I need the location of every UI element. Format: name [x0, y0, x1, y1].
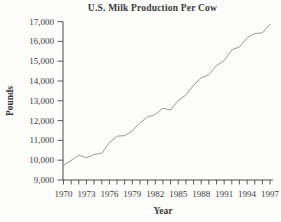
x-tick-label: 1988 — [192, 189, 211, 199]
y-tick-label: 16,000 — [29, 36, 54, 46]
y-tick-label: 14,000 — [29, 76, 54, 86]
data-line — [64, 24, 271, 165]
x-tick-label: 1997 — [261, 189, 280, 199]
x-tick-label: 1976 — [100, 189, 119, 199]
milk-production-figure: U.S. Milk Production Per Cow 9,00010,000… — [0, 0, 281, 222]
plot-area: 9,00010,00011,00012,00013,00014,00015,00… — [0, 0, 281, 222]
y-tick-label: 13,000 — [29, 96, 54, 106]
y-tick-label: 12,000 — [29, 116, 54, 126]
y-tick-label: 15,000 — [29, 56, 54, 66]
y-tick-label: 17,000 — [29, 17, 54, 27]
y-tick-label: 9,000 — [34, 175, 55, 185]
x-tick-label: 1991 — [215, 189, 233, 199]
y-tick-label: 10,000 — [29, 155, 54, 165]
y-tick-label: 11,000 — [30, 135, 55, 145]
x-tick-label: 1979 — [123, 189, 142, 199]
x-tick-label: 1970 — [55, 189, 74, 199]
x-axis-title: Year — [154, 206, 173, 216]
x-tick-label: 1982 — [146, 189, 164, 199]
y-axis-title: Pounds — [5, 86, 15, 116]
x-tick-label: 1985 — [169, 189, 188, 199]
x-tick-label: 1973 — [77, 189, 96, 199]
x-tick-label: 1994 — [238, 189, 257, 199]
